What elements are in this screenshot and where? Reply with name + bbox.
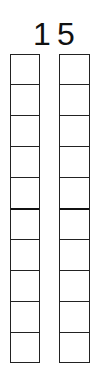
tens-digit: 1 xyxy=(33,18,51,50)
ones-column xyxy=(59,54,90,363)
cell-divider xyxy=(11,332,39,333)
cell-divider xyxy=(60,239,89,240)
cell-divider xyxy=(11,115,39,116)
cell-divider xyxy=(11,177,39,178)
cell-divider xyxy=(60,301,89,302)
cell-divider xyxy=(11,146,39,147)
cell-divider xyxy=(60,84,89,85)
cell-divider xyxy=(60,115,89,116)
cell-divider xyxy=(60,270,89,271)
cell-divider xyxy=(60,332,89,333)
tens-column xyxy=(10,54,40,363)
cell-divider xyxy=(60,177,89,178)
cell-divider xyxy=(11,270,39,271)
cell-divider xyxy=(60,146,89,147)
half-divider xyxy=(60,208,89,210)
cell-divider xyxy=(11,84,39,85)
cell-divider xyxy=(11,239,39,240)
ones-digit: 5 xyxy=(57,18,75,50)
half-divider xyxy=(11,208,39,210)
cell-divider xyxy=(11,301,39,302)
